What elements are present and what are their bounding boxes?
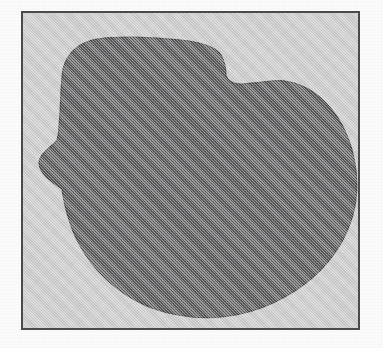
- figure-canvas: [0, 0, 383, 348]
- blob-shape-svg: [23, 13, 358, 328]
- figure-border: [21, 11, 360, 330]
- blob-outline-path: [39, 37, 357, 318]
